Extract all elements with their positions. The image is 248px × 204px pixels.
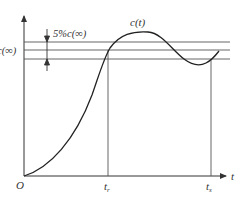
origin-label: O [16, 179, 24, 191]
x-axis-label: t [231, 170, 235, 182]
rise-time-label: tr [104, 180, 110, 194]
response-curve [24, 32, 219, 176]
tolerance-band [24, 42, 230, 59]
curve-label: c(t) [130, 16, 146, 29]
settling-time-label: ts [206, 180, 212, 194]
tolerance-band-label: 5%c(∞) [53, 28, 87, 40]
steady-state-label: c(∞) [0, 45, 17, 57]
step-response-diagram: c(t) c(∞) 5%c(∞) O tr ts t [0, 0, 248, 204]
